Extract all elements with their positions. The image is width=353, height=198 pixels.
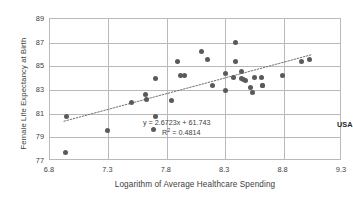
data-point	[307, 57, 312, 62]
data-point	[231, 75, 236, 80]
y-tick-label: 87	[18, 38, 44, 47]
data-point	[63, 150, 68, 155]
data-point	[239, 69, 244, 74]
x-tick-label: 8.8	[268, 165, 298, 174]
y-tick-label: 85	[18, 61, 44, 70]
r-squared-label: R2 = 0.4814	[162, 127, 200, 137]
x-axis-title: Logarithm of Average Healthcare Spending	[49, 180, 341, 189]
data-point	[299, 59, 304, 64]
data-point	[223, 88, 228, 93]
y-tick-label: 77	[18, 156, 44, 165]
x-tick-label: 7.3	[92, 165, 122, 174]
data-point	[153, 76, 158, 81]
regression-equation-label: y = 2.6723x + 61.743	[143, 118, 211, 127]
data-point	[64, 114, 69, 119]
scatter-chart-figure: Female Life Expectancy at Birth Logarith…	[0, 0, 353, 198]
data-point	[233, 40, 238, 45]
y-tick-label: 81	[18, 109, 44, 118]
plot-area: y = 2.6723x + 61.743 R2 = 0.4814 USA	[49, 18, 341, 160]
trendline	[50, 19, 340, 159]
data-point	[143, 92, 148, 97]
x-tick-label: 9.3	[326, 165, 353, 174]
usa-annotation-label: USA	[337, 120, 353, 129]
y-tick-label: 83	[18, 85, 44, 94]
y-tick-label: 89	[18, 14, 44, 23]
x-tick-label: 6.8	[34, 165, 64, 174]
data-point	[175, 59, 180, 64]
data-point	[259, 75, 264, 80]
data-point	[182, 73, 187, 78]
x-tick-label: 8.3	[209, 165, 239, 174]
data-point	[252, 75, 257, 80]
data-point	[248, 85, 253, 90]
data-point	[243, 78, 248, 83]
x-tick-label: 7.8	[151, 165, 181, 174]
y-tick-label: 79	[18, 132, 44, 141]
data-point	[223, 71, 228, 76]
data-point	[205, 57, 210, 62]
